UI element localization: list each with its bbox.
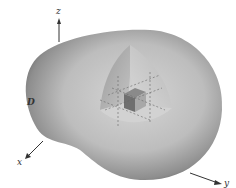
solid-region-figure [0,0,236,188]
diagram: z x y D [0,0,236,188]
x-axis [25,141,43,159]
x-axis-label: x [17,157,22,167]
y-axis-label: y [224,178,229,188]
region-label: D [27,97,35,107]
z-axis [57,18,61,42]
z-axis-label: z [56,6,61,16]
y-axis [190,173,222,185]
